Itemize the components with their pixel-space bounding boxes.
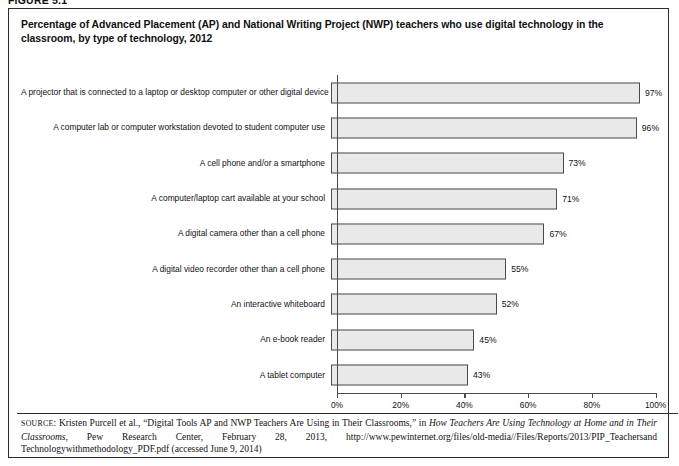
x-tick-label: 20% xyxy=(392,400,409,410)
bar-category-label: A computer lab or computer workstation d… xyxy=(21,122,331,133)
bar-value-label: 73% xyxy=(564,158,586,168)
bar-category-label: An e-book reader xyxy=(21,334,331,345)
bar xyxy=(331,365,468,386)
bar-zone: 73% xyxy=(331,146,649,181)
bar-category-label: A projector that is connected to a lapto… xyxy=(21,87,331,98)
figure-container: FIGURE 5.1 Percentage of Advanced Placem… xyxy=(0,0,679,466)
bar xyxy=(331,153,564,174)
bar xyxy=(331,188,557,209)
bar xyxy=(331,117,637,138)
bar xyxy=(331,259,506,280)
bar xyxy=(331,223,544,244)
bar-category-label: A cell phone and/or a smartphone xyxy=(21,158,331,169)
bar-zone: 43% xyxy=(331,357,649,392)
x-tick-label: 100% xyxy=(645,400,666,410)
source-divider xyxy=(17,413,678,414)
x-tick-label: 40% xyxy=(456,400,473,410)
bar-category-label: A digital camera other than a cell phone xyxy=(21,228,331,239)
bar-value-label: 55% xyxy=(506,264,528,274)
bar-zone: 45% xyxy=(331,322,649,357)
bar-value-label: 71% xyxy=(557,194,579,204)
bar-category-label: A computer/laptop cart available at your… xyxy=(21,193,331,204)
bar-zone: 96% xyxy=(331,110,649,145)
bar-zone: 97% xyxy=(331,75,649,110)
bar-category-label: A digital video recorder other than a ce… xyxy=(21,264,331,275)
x-tick-label: 0% xyxy=(331,400,343,410)
bar-category-label: An interactive whiteboard xyxy=(21,299,331,310)
figure-number-label: FIGURE 5.1 xyxy=(8,0,67,6)
bar-value-label: 96% xyxy=(637,123,659,133)
bar-zone: 52% xyxy=(331,287,649,322)
source-text-1: : Kristen Purcell et al., “Digital Tools… xyxy=(54,418,429,428)
x-tick-mark xyxy=(592,393,593,398)
bar xyxy=(331,329,474,350)
x-tick-mark xyxy=(464,393,465,398)
bar xyxy=(331,294,497,315)
chart-title: Percentage of Advanced Placement (AP) an… xyxy=(21,18,651,46)
x-tick-label: 80% xyxy=(583,400,600,410)
x-tick-mark xyxy=(528,393,529,398)
bar-value-label: 45% xyxy=(474,335,496,345)
bar-zone: 71% xyxy=(331,181,649,216)
x-tick-label: 60% xyxy=(520,400,537,410)
y-axis-line xyxy=(337,75,338,393)
bar-category-label: A tablet computer xyxy=(21,370,331,381)
bar xyxy=(331,82,640,103)
x-tick-mark xyxy=(656,393,657,398)
x-tick-mark xyxy=(337,393,338,398)
figure-panel: Percentage of Advanced Placement (AP) an… xyxy=(8,8,669,458)
bar-value-label: 67% xyxy=(544,229,566,239)
bar-zone: 67% xyxy=(331,216,649,251)
bar-value-label: 52% xyxy=(497,299,519,309)
bar-chart: A projector that is connected to a lapto… xyxy=(21,75,655,412)
bar-value-label: 43% xyxy=(468,370,490,380)
bar-value-label: 97% xyxy=(640,88,662,98)
source-text-2: , Pew Research Center, February 28, 2013… xyxy=(21,432,657,455)
source-note: SOURCE: Kristen Purcell et al., “Digital… xyxy=(21,417,657,456)
x-tick-mark xyxy=(401,393,402,398)
x-axis-line xyxy=(337,393,656,394)
bar-zone: 55% xyxy=(331,252,649,287)
source-prefix: SOURCE xyxy=(21,419,54,428)
